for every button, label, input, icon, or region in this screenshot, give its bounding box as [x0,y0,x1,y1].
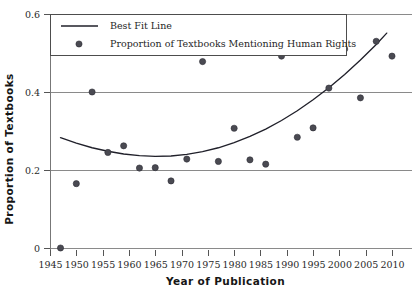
data-point [215,158,221,164]
x-tick-label-1965: 1965 [144,259,168,270]
data-point [136,165,142,171]
data-point [168,178,174,184]
x-tick-label-2005: 2005 [354,259,378,270]
x-tick-label-2000: 2000 [328,259,352,270]
data-point [57,245,63,251]
data-point [199,58,205,64]
x-tick-label-1945: 1945 [38,259,62,270]
x-tick-label-1970: 1970 [170,259,194,270]
x-tick-label-1990: 1990 [275,259,299,270]
data-point [105,149,111,155]
data-point [310,125,316,131]
y-tick-label-0_4: 0.4 [25,87,40,98]
data-point [121,143,127,149]
data-point [231,125,237,131]
data-point [373,38,379,44]
y-tick-label-0: 0 [34,243,40,254]
x-axis-ticks: 1945195019551960196519701975198019851990… [38,250,404,270]
x-tick-label-1985: 1985 [249,259,273,270]
x-tick-label-1995: 1995 [301,259,325,270]
data-point [184,156,190,162]
legend-marker-circle [76,41,82,47]
data-point [247,157,253,163]
chart-figure: Proportion of Textbooks Year of Publicat… [0,0,417,298]
x-tick-label-1960: 1960 [117,259,141,270]
x-tick-label-1950: 1950 [65,259,89,270]
x-tick-label-1955: 1955 [91,259,115,270]
data-point [73,181,79,187]
data-point [389,53,395,59]
data-point [263,161,269,167]
y-tick-label-0_6: 0.6 [25,9,40,20]
legend-label-0: Best Fit Line [110,20,172,31]
data-point [326,85,332,91]
y-axis-ticks: 00.20.40.6 [25,9,50,254]
data-point [357,95,363,101]
y-tick-label-0_2: 0.2 [25,165,40,176]
legend-label-1: Proportion of Textbooks Mentioning Human… [110,38,356,49]
data-point [89,89,95,95]
data-point [294,134,300,140]
x-tick-label-1980: 1980 [223,259,247,270]
chart-legend: Best Fit LineProportion of Textbooks Men… [51,15,357,56]
data-point [152,165,158,171]
x-tick-label-1975: 1975 [196,259,220,270]
plot-area: 1945195019551960196519701975198019851990… [0,0,417,298]
x-tick-label-2010: 2010 [380,259,404,270]
